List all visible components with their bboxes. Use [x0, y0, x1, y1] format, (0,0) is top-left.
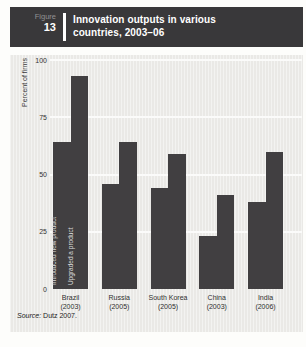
y-tick-75: 75 [10, 113, 47, 122]
legend-upgraded-a-product: Upgraded a product [67, 228, 75, 285]
figure-title-line1: Innovation outputs in various [73, 13, 216, 26]
plot-area: 0255075100Introduced new productUpgraded… [10, 55, 303, 332]
figure-title-line2: countries, 2003–06 [73, 26, 216, 39]
bar-india-series1 [248, 202, 266, 289]
x-label-year: (2006) [234, 302, 298, 311]
figure-word: Figure [10, 12, 56, 21]
x-label-india: India(2006) [234, 293, 298, 311]
bar-russia-series2 [119, 142, 137, 289]
bar-south-korea-series2 [168, 154, 186, 289]
figure-label-column: Figure 13 [10, 7, 56, 34]
figure-page: Figure 13 Innovation outputs in various … [0, 0, 306, 347]
source-label: Source: [17, 312, 41, 319]
chart-area: Percent of firms 0255075100Introduced ne… [10, 55, 303, 332]
figure-header: Figure 13 Innovation outputs in various … [10, 7, 303, 47]
figure-number: 13 [10, 21, 56, 34]
y-tick-50: 50 [10, 170, 47, 179]
bar-china-series1 [199, 236, 217, 289]
bar-south-korea-series1 [151, 188, 169, 289]
header-divider [63, 13, 66, 41]
source-line: Source: Dutz 2007. [17, 312, 77, 319]
source-text: Dutz 2007. [41, 312, 77, 319]
y-tick-100: 100 [10, 56, 47, 65]
bar-china-series2 [217, 195, 235, 289]
figure-title: Innovation outputs in various countries,… [73, 7, 216, 39]
gridline-100 [50, 59, 302, 61]
y-tick-25: 25 [10, 227, 47, 236]
x-label-country: India [234, 293, 298, 302]
legend-introduced-new-product: Introduced new product [50, 217, 58, 285]
bar-india-series2 [266, 152, 284, 289]
bar-russia-series1 [102, 184, 120, 289]
